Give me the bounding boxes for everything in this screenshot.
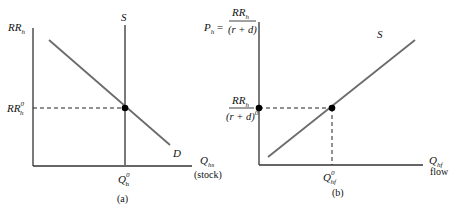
panel-a-caption: (a) [117, 193, 128, 205]
panel-b-y-axis-denominator: (r + d) [228, 24, 257, 36]
panel-b-supply-label: S [377, 28, 383, 40]
panel-b-supply-curve [268, 40, 415, 157]
panel-b-y-axis-prefix: Ph = [203, 21, 223, 36]
stock-flow-housing-diagram: RRh S D RR0h Qhs (stock) Q0h (a) Ph = RR… [0, 0, 458, 211]
panel-a: RRh S D RR0h Qhs (stock) Q0h (a) [6, 11, 222, 205]
panel-a-equilibrium-quantity-label: Q0h [118, 171, 130, 188]
panel-b-y-axis-numerator: RRh [231, 6, 249, 21]
panel-b-equilibrium-price-numerator: RRh [231, 94, 249, 109]
panel-b: Ph = RRh (r + d) S RRh (r + d)0 Qhf flow… [203, 6, 449, 199]
panel-a-x-axis-label: Qhs [200, 154, 214, 169]
panel-a-equilibrium-point [122, 105, 129, 112]
panel-b-x-axis-note: flow [430, 166, 449, 177]
panel-a-equilibrium-rent-label: RR0h [6, 100, 24, 117]
panel-b-equilibrium-point [329, 105, 336, 112]
panel-a-y-axis-label: RRh [7, 21, 25, 36]
panel-b-equilibrium-price-denominator: (r + d)0 [226, 109, 259, 123]
panel-b-caption: (b) [332, 187, 344, 199]
panel-a-demand-label: D [172, 147, 181, 159]
panel-a-x-axis-note: (stock) [194, 169, 222, 181]
panel-b-equilibrium-quantity-label: Q0hf [323, 169, 337, 186]
panel-a-supply-label: S [121, 11, 127, 23]
panel-a-demand-curve [49, 40, 170, 145]
